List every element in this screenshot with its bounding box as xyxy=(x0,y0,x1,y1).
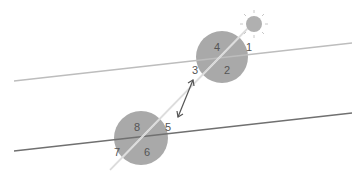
transversal-line-shadow xyxy=(110,26,250,170)
upper-parallel-line xyxy=(14,43,352,81)
parallel-lines-diagram: 1 2 3 4 5 6 7 8 xyxy=(0,0,364,179)
angle-label-1: 1 xyxy=(246,41,252,53)
angle-label-8: 8 xyxy=(134,121,140,133)
angle-label-4: 4 xyxy=(214,41,220,53)
angle-label-3: 3 xyxy=(192,64,198,76)
angle-label-6: 6 xyxy=(144,146,150,158)
lower-parallel-line xyxy=(14,113,352,151)
angle-label-2: 2 xyxy=(224,64,230,76)
angle-label-7: 7 xyxy=(114,146,120,158)
sun-icon xyxy=(240,10,268,38)
angle-label-5: 5 xyxy=(165,121,171,133)
